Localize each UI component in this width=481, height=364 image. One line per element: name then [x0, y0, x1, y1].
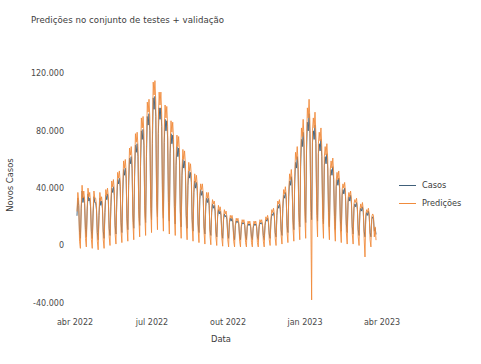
- series-line-predições: [77, 81, 376, 300]
- legend-swatch-icon: [399, 203, 416, 204]
- series-canvas: [72, 62, 390, 310]
- chart-legend: CasosPredições: [399, 176, 479, 212]
- x-tick-label: out 2022: [210, 318, 246, 327]
- x-axis-label: Data: [211, 334, 231, 344]
- x-tick-label: jan 2023: [287, 318, 322, 327]
- y-tick-label: 0: [0, 241, 64, 250]
- chart-title: Predições no conjunto de testes + valida…: [31, 15, 224, 25]
- y-tick-label: -40.000: [0, 298, 64, 307]
- chart-figure: Predições no conjunto de testes + valida…: [0, 0, 481, 364]
- legend-label: Predições: [422, 198, 461, 208]
- legend-label: Casos: [422, 180, 446, 190]
- x-tick-label: jul 2022: [136, 318, 168, 327]
- y-tick-label: 80.000: [0, 126, 64, 135]
- x-tick-label: abr 2022: [57, 318, 93, 327]
- legend-item-casos[interactable]: Casos: [399, 176, 479, 194]
- y-tick-label: 40.000: [0, 184, 64, 193]
- plot-area: [72, 62, 390, 310]
- x-tick-label: abr 2023: [364, 318, 400, 327]
- legend-swatch-icon: [399, 185, 416, 186]
- legend-item-predições[interactable]: Predições: [399, 194, 479, 212]
- y-tick-label: 120.000: [0, 69, 64, 78]
